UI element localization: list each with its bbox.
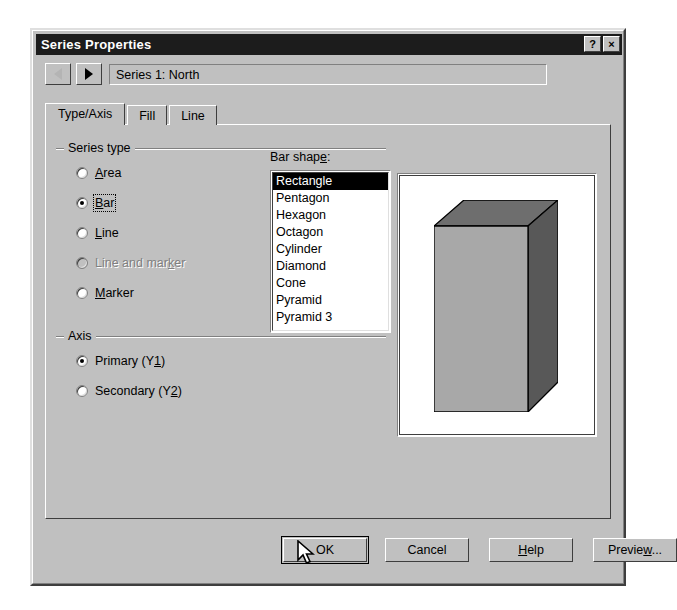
radio-indicator-primary-axis: [76, 355, 88, 367]
bar-shape-preview-pane: [397, 173, 597, 437]
radio-indicator-area: [76, 167, 88, 179]
triangle-right-icon: [85, 68, 93, 80]
tab-line[interactable]: Line: [169, 105, 217, 125]
previous-series-button[interactable]: [45, 63, 71, 85]
radio-line[interactable]: Line: [76, 225, 119, 241]
radio-primary-axis[interactable]: Primary (Y1): [76, 353, 165, 369]
bar-shape-listbox[interactable]: Rectangle Pentagon Hexagon Octagon Cylin…: [270, 170, 391, 333]
radio-label-primary-axis: Primary (Y1): [95, 354, 165, 368]
radio-indicator-line-and-marker: [76, 257, 88, 269]
tab-page-type-axis: Series type Area Bar Line Line and marke…: [45, 124, 611, 519]
list-item[interactable]: Cone: [273, 275, 388, 292]
radio-line-and-marker: Line and marker: [76, 255, 185, 271]
bar-shape-listbox-inner: Rectangle Pentagon Hexagon Octagon Cylin…: [272, 172, 389, 331]
radio-label-line: Line: [95, 226, 119, 240]
radio-secondary-axis[interactable]: Secondary (Y2): [76, 383, 182, 399]
radio-area[interactable]: Area: [76, 165, 121, 181]
radio-indicator-line: [76, 227, 88, 239]
tab-type-axis[interactable]: Type/Axis: [45, 103, 125, 125]
preview-button-label: Preview...: [608, 543, 662, 557]
list-item[interactable]: Diamond: [273, 258, 388, 275]
series-properties-dialog: Series Properties ? × Series 1: North Ty…: [30, 28, 626, 586]
list-item[interactable]: Rectangle: [273, 173, 388, 190]
groupbox-line: [56, 336, 386, 338]
series-navigator: Series 1: North: [45, 63, 611, 87]
preview-canvas: [399, 175, 595, 435]
preview-button[interactable]: Preview...: [593, 538, 677, 562]
ok-button[interactable]: OK: [283, 538, 367, 562]
help-icon-button[interactable]: ?: [584, 36, 601, 52]
radio-bar[interactable]: Bar: [76, 195, 114, 211]
next-series-button[interactable]: [76, 63, 102, 85]
titlebar[interactable]: Series Properties ? ×: [36, 34, 622, 55]
dialog-title: Series Properties: [36, 37, 151, 52]
list-item[interactable]: Hexagon: [273, 207, 388, 224]
radio-label-marker: Marker: [95, 286, 134, 300]
radio-indicator-marker: [76, 287, 88, 299]
radio-indicator-bar: [76, 197, 88, 209]
list-item[interactable]: Octagon: [273, 224, 388, 241]
radio-label-bar: Bar: [95, 196, 114, 210]
bar-shape-label: Bar shape:: [270, 150, 330, 164]
series-type-group-label: Series type: [64, 141, 135, 155]
dialog-inner-frame: Series Properties ? × Series 1: North Ty…: [32, 30, 624, 584]
list-item[interactable]: Pentagon: [273, 190, 388, 207]
list-item[interactable]: Pyramid 3: [273, 309, 388, 326]
rectangle-3d-bar-icon: [434, 200, 558, 412]
list-item[interactable]: Cylinder: [273, 241, 388, 258]
radio-label-area: Area: [95, 166, 121, 180]
help-button-label: Help: [518, 543, 544, 557]
cancel-button[interactable]: Cancel: [385, 538, 469, 562]
radio-label-secondary-axis: Secondary (Y2): [95, 384, 182, 398]
axis-group-label: Axis: [64, 329, 96, 343]
radio-indicator-secondary-axis: [76, 385, 88, 397]
radio-marker[interactable]: Marker: [76, 285, 134, 301]
tabstrip: Type/Axis Fill Line: [45, 103, 219, 125]
close-icon-button[interactable]: ×: [603, 36, 620, 52]
triangle-left-icon: [54, 68, 62, 80]
series-name-field[interactable]: Series 1: North: [109, 64, 547, 85]
titlebar-button-group: ? ×: [584, 36, 620, 52]
help-button[interactable]: Help: [489, 538, 573, 562]
radio-label-line-and-marker: Line and marker: [95, 256, 185, 270]
list-item[interactable]: Pyramid: [273, 292, 388, 309]
tab-fill[interactable]: Fill: [127, 105, 167, 125]
